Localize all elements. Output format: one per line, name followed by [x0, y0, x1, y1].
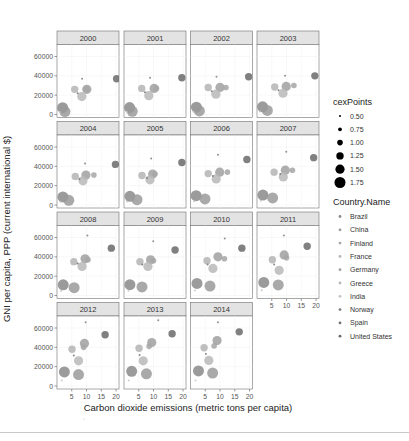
- legend-size-dot: [338, 127, 342, 131]
- data-point-spain: [278, 89, 280, 91]
- x-tick-label: 5: [270, 302, 274, 309]
- y-tick-label: 20000: [34, 273, 53, 280]
- legend-color-dot: [339, 242, 342, 245]
- data-point-spain: [279, 173, 281, 175]
- legend-country-label: India: [350, 293, 365, 300]
- facet-strip-label: 2004: [80, 124, 97, 133]
- data-point-india: [192, 111, 194, 113]
- data-point-united-states: [310, 154, 317, 161]
- y-tick-label: 60000: [34, 234, 53, 241]
- data-point-china: [141, 368, 152, 379]
- data-point-greece: [143, 262, 152, 271]
- data-point-greece: [208, 264, 217, 273]
- data-point-india: [195, 379, 197, 381]
- legend-color-dot: [339, 335, 342, 338]
- data-point-norway: [217, 321, 219, 323]
- x-axis-title: Carbon dioxide emissions (metric tons pe…: [84, 402, 293, 413]
- y-tick-label: 0: [49, 292, 53, 299]
- facet-strip-label: 2002: [213, 34, 230, 43]
- data-point-greece: [145, 175, 154, 184]
- data-point-india: [61, 380, 63, 382]
- facet-panel-2011: 2011: [257, 212, 319, 299]
- data-point-spain: [144, 91, 146, 93]
- data-point-united-states: [303, 243, 310, 250]
- data-point-china: [59, 106, 70, 117]
- legend-size-title: cexPoints: [333, 97, 373, 107]
- y-tick-label: 20000: [34, 363, 53, 370]
- data-point-greece: [275, 266, 284, 275]
- facet-strip-label: 2011: [280, 215, 296, 224]
- data-point-india: [194, 289, 196, 291]
- data-point-china: [273, 279, 284, 290]
- legend-color-dot: [339, 228, 342, 231]
- data-point-united-states: [112, 161, 119, 168]
- facet-strip-label: 2003: [280, 34, 297, 43]
- x-tick-label: 15: [98, 393, 106, 400]
- data-point-united-states: [101, 331, 108, 338]
- facet-strip-label: 2009: [147, 215, 164, 224]
- data-point-norway: [152, 240, 154, 242]
- data-point-india: [59, 111, 61, 113]
- data-point-france: [200, 344, 207, 351]
- data-point-united-states: [168, 330, 175, 337]
- data-point-norway: [285, 151, 287, 153]
- data-point-norway: [150, 158, 152, 160]
- facet-panel-2006: 2006: [191, 122, 253, 209]
- data-point-brazil: [257, 190, 268, 201]
- facet-panel-2003: 2003: [257, 31, 319, 118]
- data-point-france: [72, 173, 79, 180]
- facet-panel-2002: 2002: [191, 31, 253, 118]
- data-point-norway: [283, 235, 285, 237]
- data-point-spain: [212, 175, 214, 177]
- legend-size-dot: [336, 152, 343, 159]
- data-point-india: [126, 201, 128, 203]
- data-point-finland: [154, 86, 160, 92]
- data-point-greece: [78, 176, 87, 185]
- x-tick-label: 10: [150, 393, 158, 400]
- facet-panels: 2000200120022003200420052006200720082009…: [57, 31, 319, 389]
- data-point-finland: [211, 343, 217, 349]
- data-point-greece: [74, 356, 83, 365]
- data-point-france: [203, 257, 210, 264]
- y-tick-label: 0: [49, 111, 53, 118]
- data-point-india: [193, 200, 195, 202]
- data-point-china: [262, 105, 273, 116]
- data-point-finland: [81, 345, 87, 351]
- legend-color-dot: [339, 295, 342, 298]
- data-point-greece: [278, 89, 287, 98]
- facet-panel-2005: 2005: [124, 122, 186, 209]
- data-point-india: [59, 201, 61, 203]
- data-point-greece: [77, 262, 86, 271]
- y-tick-label: 40000: [34, 72, 53, 79]
- data-point-finland: [85, 257, 91, 263]
- data-point-china: [63, 195, 74, 206]
- legend-size-label: 1.75: [350, 179, 364, 186]
- faceted-scatter-chart: 2000200120022003200420052006200720082009…: [0, 0, 409, 441]
- data-point-france: [205, 170, 212, 177]
- data-point-united-states: [108, 244, 115, 251]
- facet-panel-2009: 2009: [124, 212, 186, 299]
- y-tick-label: 40000: [34, 163, 53, 170]
- data-point-finland: [151, 258, 157, 264]
- data-point-china: [204, 281, 215, 292]
- data-point-brazil: [126, 366, 137, 377]
- data-point-spain: [73, 355, 75, 357]
- y-tick-label: 60000: [34, 144, 53, 151]
- data-point-united-states: [236, 328, 243, 335]
- data-point-china: [267, 192, 278, 203]
- data-point-norway: [224, 237, 226, 239]
- data-point-united-states: [238, 244, 245, 251]
- data-point-united-states: [171, 246, 178, 253]
- data-point-finland: [290, 167, 296, 173]
- legend-country-label: China: [350, 226, 368, 233]
- facet-strip-label: 2000: [80, 34, 97, 43]
- y-axes: 0200004000060000020000400006000002000040…: [34, 53, 57, 390]
- facet-panel-2013: 2013: [124, 303, 186, 390]
- legend-size-dot: [337, 140, 343, 146]
- legend-color-dot: [339, 308, 342, 311]
- data-point-spain: [141, 264, 143, 266]
- data-point-spain: [139, 354, 141, 356]
- data-point-spain: [211, 90, 213, 92]
- y-tick-label: 60000: [34, 53, 53, 60]
- data-point-india: [126, 111, 128, 113]
